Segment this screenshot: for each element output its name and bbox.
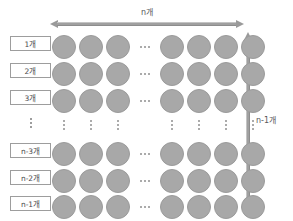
row-ellipsis (79, 115, 103, 135)
grid-circle (187, 195, 211, 219)
row-label-1: 1개 (10, 36, 51, 51)
grid-circle (160, 89, 184, 113)
grid-circle (52, 195, 76, 219)
row-ellipsis (187, 115, 211, 135)
column-ellipsis (133, 195, 157, 219)
grid-circle (79, 62, 103, 86)
column-ellipsis (133, 35, 157, 59)
row-ellipsis (52, 115, 76, 135)
grid-circle (214, 169, 238, 193)
arrow-head-right-icon (236, 20, 244, 28)
grid-circle (106, 169, 130, 193)
grid-circle (187, 169, 211, 193)
row-label-2: 2개 (10, 63, 51, 78)
grid-circle (241, 89, 265, 113)
grid-circle (241, 195, 265, 219)
horizontal-measure-label: n개 (50, 6, 244, 17)
column-ellipsis (133, 169, 157, 193)
grid-circle (187, 142, 211, 166)
row-ellipsis (160, 115, 184, 135)
grid-circle (52, 89, 76, 113)
horizontal-measure-arrow (50, 20, 244, 28)
grid-circle (106, 195, 130, 219)
row-ellipsis (106, 115, 130, 135)
grid-circle (160, 62, 184, 86)
grid-circle (187, 35, 211, 59)
grid-circle (106, 89, 130, 113)
grid-circle (160, 169, 184, 193)
grid-circle (106, 35, 130, 59)
grid-circle (160, 35, 184, 59)
grid-circle (241, 169, 265, 193)
grid-circle (187, 62, 211, 86)
column-ellipsis (133, 62, 157, 86)
grid-circle (79, 142, 103, 166)
grid-circle (79, 169, 103, 193)
row-label-3: 3개 (10, 90, 51, 105)
grid-circle (106, 142, 130, 166)
grid-circle (214, 89, 238, 113)
diagram-canvas: n개 n-1개 1개 2개 3개 n-3개 n-2개 n-1개 (0, 0, 293, 221)
grid-circle (52, 62, 76, 86)
grid-circle (52, 142, 76, 166)
row-label-ellipsis (10, 115, 51, 130)
column-ellipsis (133, 89, 157, 113)
row-label-n-2: n-2개 (10, 170, 51, 185)
column-ellipsis (133, 142, 157, 166)
grid-circle (241, 62, 265, 86)
grid-circle (160, 142, 184, 166)
grid-circle (214, 62, 238, 86)
grid-circle (79, 35, 103, 59)
row-ellipsis (241, 115, 265, 135)
grid-circle (214, 142, 238, 166)
grid-circle (79, 195, 103, 219)
row-label-n-3: n-3개 (10, 143, 51, 158)
grid-circle (79, 89, 103, 113)
grid-circle (214, 195, 238, 219)
grid-circle (52, 35, 76, 59)
grid-circle (241, 35, 265, 59)
arrow-shaft (57, 22, 237, 26)
grid-circle (187, 89, 211, 113)
row-ellipsis (214, 115, 238, 135)
grid-circle (241, 142, 265, 166)
grid-circle (52, 169, 76, 193)
row-label-n-1: n-1개 (10, 196, 51, 211)
grid-circle (214, 35, 238, 59)
grid-circle (106, 62, 130, 86)
grid-circle (160, 195, 184, 219)
